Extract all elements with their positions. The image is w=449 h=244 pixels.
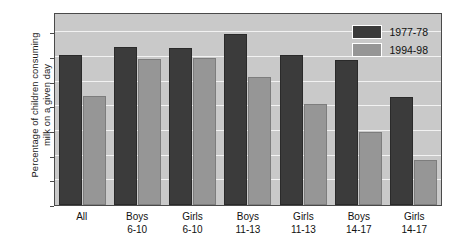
y-axis-title-line-1: Percentage of children consuming (29, 5, 41, 205)
bar-group-all (55, 14, 110, 205)
x-tick-label-line-2: 11-13 (276, 223, 331, 236)
bar-chart: Percentage of children consuming milk on… (0, 0, 449, 244)
x-tick-label-boys-14-17: Boys14-17 (331, 210, 386, 236)
bar-1977-78-boys-14-17 (335, 60, 358, 205)
bar-1977-78-girls-14-17 (390, 97, 413, 205)
plot-frame: 1977-78 1994-98 (54, 13, 442, 206)
legend-swatch-1977-78 (352, 25, 382, 39)
bar-1994-98-boys-11-13 (248, 77, 271, 205)
bar-1994-98-boys-14-17 (359, 132, 382, 205)
bar-group-boys-6-10 (110, 14, 165, 205)
x-tick-label-girls-6-10: Girls6-10 (165, 210, 220, 236)
bar-group-boys-11-13 (220, 14, 275, 205)
legend-label-1977-78: 1977-78 (389, 26, 428, 38)
legend-item-series-0: 1977-78 (352, 25, 428, 39)
legend-swatch-1994-98 (352, 43, 382, 57)
x-tick-label-girls-11-13: Girls11-13 (276, 210, 331, 236)
x-tick-label-line-2: 14-17 (387, 223, 442, 236)
x-tick-label-line-1: Boys (126, 211, 148, 222)
bar-1977-78-boys-11-13 (224, 34, 247, 205)
x-axis-labels: AllBoys6-10Girls6-10Boys11-13Girls11-13B… (54, 210, 442, 236)
bar-1994-98-all (83, 96, 106, 205)
x-tick-label-line-1: Boys (237, 211, 259, 222)
bar-1994-98-girls-14-17 (414, 160, 437, 205)
x-tick-label-line-1: Girls (404, 211, 425, 222)
x-tick-label-line-2: 14-17 (331, 223, 386, 236)
y-axis-title-line-2: milk on a given day (41, 5, 53, 205)
legend-item-series-1: 1994-98 (352, 43, 428, 57)
bar-1977-78-boys-6-10 (114, 47, 137, 205)
bar-1994-98-girls-11-13 (304, 104, 327, 205)
x-tick-label-line-1: Girls (293, 211, 314, 222)
x-tick-label-line-2: 11-13 (220, 223, 275, 236)
x-tick-label-line-2: 6-10 (109, 223, 164, 236)
x-tick-label-all: All (54, 210, 109, 236)
bar-1977-78-girls-11-13 (280, 55, 303, 205)
x-tick-label-boys-6-10: Boys6-10 (109, 210, 164, 236)
bar-1994-98-girls-6-10 (193, 58, 216, 205)
x-tick-label-line-1: Boys (348, 211, 370, 222)
bar-1977-78-all (59, 55, 82, 205)
x-tick-label-girls-14-17: Girls14-17 (387, 210, 442, 236)
x-tick-label-boys-11-13: Boys11-13 (220, 210, 275, 236)
bar-1977-78-girls-6-10 (169, 48, 192, 205)
legend-label-1994-98: 1994-98 (389, 44, 428, 56)
x-tick-label-line-2: 6-10 (165, 223, 220, 236)
bar-group-girls-6-10 (165, 14, 220, 205)
legend: 1977-78 1994-98 (348, 22, 432, 60)
x-tick-label-line-1: All (76, 211, 87, 222)
bar-1994-98-boys-6-10 (138, 59, 161, 205)
x-tick-label-line-1: Girls (182, 211, 203, 222)
bar-group-girls-11-13 (276, 14, 331, 205)
y-tick-mark-0 (50, 206, 54, 207)
